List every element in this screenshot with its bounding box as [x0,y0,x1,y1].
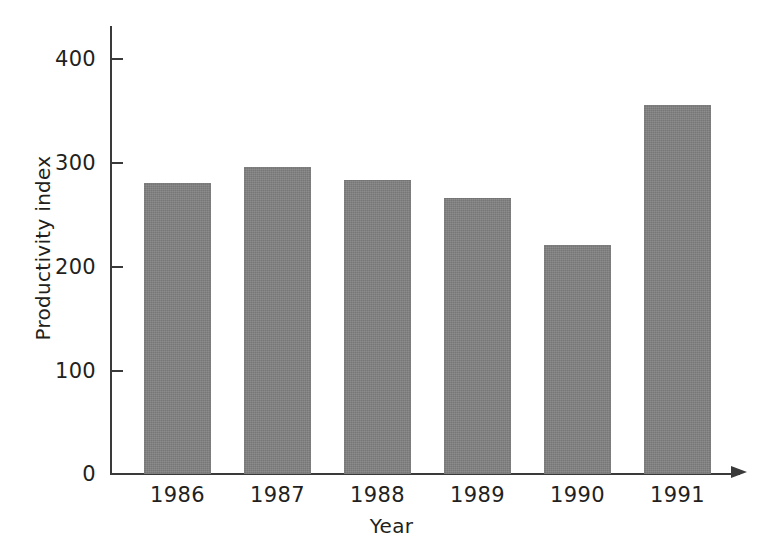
y-tick-100 [110,370,123,372]
bar-1991 [644,105,711,474]
x-tick-label-1989: 1989 [428,483,528,507]
y-tick-label-0: 0 [0,462,96,486]
y-tick-400 [110,58,123,60]
y-axis-line [110,26,112,475]
x-tick-label-1991: 1991 [628,483,728,507]
y-tick-label-100: 100 [0,359,96,383]
y-tick-label-400: 400 [0,47,96,71]
bar-1986 [144,183,211,474]
x-axis-arrowhead-icon [731,466,747,478]
bar-1988 [344,180,411,474]
y-tick-label-0-wrap: 0 [0,462,96,486]
bar-1990 [544,245,611,474]
x-tick-label-1990: 1990 [528,483,628,507]
bar-1989 [444,198,511,474]
y-tick-300 [110,162,123,164]
y-tick-200 [110,266,123,268]
x-axis-title: Year [0,514,783,538]
x-tick-label-1987: 1987 [228,483,328,507]
y-axis-title: Productivity index [31,148,55,348]
x-tick-label-1988: 1988 [328,483,428,507]
bar-chart-figure: 400 300 200 100 0 1986 1987 1988 1989 19… [0,0,783,553]
y-tick-label-100-wrap: 100 [0,359,96,383]
y-tick-label-400-wrap: 400 [0,47,96,71]
x-tick-label-1986: 1986 [128,483,228,507]
bar-1987 [244,167,311,474]
